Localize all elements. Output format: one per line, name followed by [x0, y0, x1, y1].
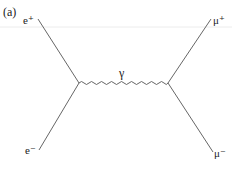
- electron-positron-incoming-line: [38, 19, 79, 83]
- feynman-diagram: (a) γ e⁺ e⁻ μ⁺ μ⁻: [0, 0, 232, 171]
- photon-propagator-wavy-line: [79, 82, 168, 85]
- muon-minus-label: μ⁻: [214, 147, 226, 159]
- muon-plus-label: μ⁺: [213, 14, 225, 26]
- muon-minus-outgoing-line: [168, 83, 213, 152]
- panel-label: (a): [3, 5, 16, 19]
- positron-label: e⁺: [23, 14, 34, 26]
- muon-plus-outgoing-line: [168, 19, 211, 83]
- electron-incoming-line: [39, 83, 79, 150]
- photon-label: γ: [118, 66, 125, 80]
- electron-label: e⁻: [25, 144, 36, 156]
